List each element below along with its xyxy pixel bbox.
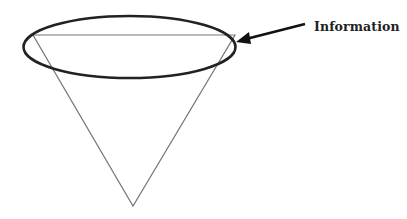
information-label: Information: [314, 19, 400, 34]
highlight-ellipse: [24, 16, 236, 78]
funnel-triangle: [33, 35, 235, 206]
arrow-icon: [236, 24, 305, 44]
